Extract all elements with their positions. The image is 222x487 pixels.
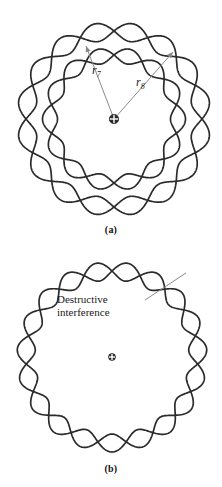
panel-a-diagram [0, 0, 222, 244]
caption-panel-b: (b) [0, 463, 222, 474]
circled-plus-icon [109, 354, 116, 361]
radius-arrow-r7 [86, 46, 114, 119]
label-r8-subscript: 8 [141, 82, 145, 91]
label-r7-subscript: 7 [97, 70, 101, 79]
caption-panel-a: (a) [0, 224, 222, 235]
radius-arrow-r7-head [86, 46, 91, 53]
callout-destructive-interference: Destructive interference [57, 293, 143, 320]
figure-standing-waves-bohr-orbits: r7 r8 (a) Destructive interference (b) [0, 0, 222, 487]
panel-b-diagram [0, 238, 222, 487]
callout-line-2: interference [57, 306, 143, 319]
callout-line-1: Destructive [57, 293, 143, 306]
radius-arrow-r7-shaft [86, 46, 114, 119]
panel-a: r7 r8 [0, 0, 222, 244]
panel-b [0, 238, 222, 487]
label-r7: r7 [92, 64, 101, 79]
circled-plus-icon [109, 114, 118, 123]
label-r8: r8 [136, 76, 145, 91]
